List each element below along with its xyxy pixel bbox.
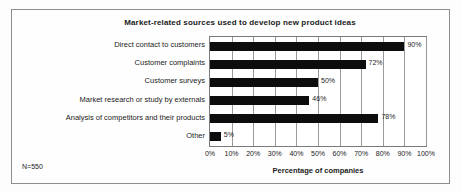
- bar-row: 5%: [210, 128, 426, 146]
- category-label: Analysis of competitors and their produc…: [9, 113, 205, 122]
- category-label: Customer surveys: [9, 76, 205, 85]
- bar-row: 90%: [210, 37, 426, 55]
- x-tick-label: 0%: [205, 150, 215, 157]
- x-tick-label: 30%: [268, 150, 282, 157]
- x-tick-label: 60%: [333, 150, 347, 157]
- bar-value-label: 50%: [318, 77, 335, 84]
- x-axis-title: Percentage of companies: [209, 166, 427, 175]
- bar-value-label: 46%: [309, 95, 326, 102]
- x-tick-label: 20%: [246, 150, 260, 157]
- x-tick-label: 70%: [354, 150, 368, 157]
- bar-value-label: 78%: [378, 113, 395, 120]
- bar-value-label: 5%: [221, 131, 234, 138]
- bar: [210, 78, 318, 87]
- x-tick-label: 80%: [376, 150, 390, 157]
- category-axis-labels: Direct contact to customersCustomer comp…: [8, 36, 205, 147]
- category-label: Direct contact to customers: [9, 40, 205, 49]
- x-tick-label: 40%: [289, 150, 303, 157]
- bar: [210, 132, 221, 141]
- bar-row: 50%: [210, 73, 426, 91]
- x-tick-label: 100%: [417, 150, 435, 157]
- bar-value-label: 90%: [404, 41, 421, 48]
- gridline: [426, 37, 427, 146]
- bar-row: 72%: [210, 55, 426, 73]
- x-tick-label: 10%: [225, 150, 239, 157]
- bar: [210, 96, 309, 105]
- sample-size-note: N=550: [22, 163, 43, 170]
- chart-figure: Market-related sources used to develop n…: [0, 0, 462, 193]
- x-tick-label: 50%: [311, 150, 325, 157]
- chart-title: Market-related sources used to develop n…: [60, 18, 420, 27]
- category-label: Market research or study by externals: [9, 95, 205, 104]
- category-label: Other: [9, 131, 205, 140]
- bar: [210, 60, 366, 69]
- plot-area: 90%72%50%46%78%5%: [209, 36, 427, 147]
- bar: [210, 42, 404, 51]
- x-tick-label: 90%: [397, 150, 411, 157]
- x-axis-ticks: 0%10%20%30%40%50%60%70%80%90%100%: [209, 150, 427, 162]
- bar-row: 78%: [210, 110, 426, 128]
- bar-row: 46%: [210, 92, 426, 110]
- bar: [210, 114, 378, 123]
- bar-value-label: 72%: [366, 59, 383, 66]
- category-label: Customer complaints: [9, 58, 205, 67]
